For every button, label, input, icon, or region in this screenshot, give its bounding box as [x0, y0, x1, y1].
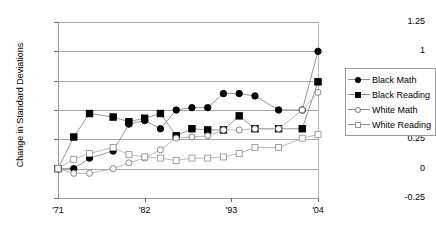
x-tick-mark [145, 198, 146, 202]
y-tick-mark [54, 139, 58, 140]
data-point [142, 155, 148, 161]
legend-marker-open-square-icon [348, 119, 370, 131]
legend-item-label: White Reading [370, 120, 431, 130]
data-point [173, 157, 179, 163]
data-point [126, 152, 132, 158]
data-point [71, 170, 77, 176]
x-tick-mark [318, 198, 319, 202]
legend-item[interactable]: White Math [348, 102, 431, 117]
data-point [110, 148, 116, 154]
y-tick-label: -0.25 [373, 193, 425, 202]
x-tick-label: '71 [38, 205, 78, 215]
data-point [142, 154, 148, 160]
y-axis-title: Change in Standard Deviations [15, 15, 25, 195]
data-point [157, 126, 163, 132]
y-tick-mark [54, 81, 58, 82]
data-point [173, 133, 179, 139]
data-point [157, 110, 163, 116]
data-point [71, 156, 77, 162]
data-point [252, 145, 258, 151]
legend-marker-filled-square-icon [348, 89, 370, 101]
legend: Black Math Black Reading White Math Whit… [345, 68, 436, 136]
y-tick-label: 1.25 [373, 17, 425, 26]
data-point [87, 170, 93, 176]
data-point [189, 126, 195, 132]
y-tick-mark [54, 110, 58, 111]
data-point [252, 126, 258, 132]
data-point [126, 119, 132, 125]
data-point [220, 127, 226, 133]
data-point [157, 147, 163, 153]
data-point [126, 121, 132, 127]
data-point [236, 90, 242, 96]
gridline [58, 139, 318, 140]
data-point [220, 90, 226, 96]
data-point [275, 126, 281, 132]
data-point [141, 115, 147, 121]
data-point [276, 145, 282, 151]
data-point [141, 117, 147, 123]
series-white-reading [55, 132, 321, 172]
x-tick-mark [231, 198, 232, 202]
legend-item[interactable]: Black Reading [348, 87, 431, 102]
legend-item-label: Black Math [370, 75, 417, 85]
x-tick-label: '82 [125, 205, 165, 215]
legend-item-label: Black Reading [370, 90, 430, 100]
data-point [252, 93, 258, 99]
data-point [110, 145, 116, 151]
y-tick-mark [54, 198, 58, 199]
legend-item[interactable]: Black Math [348, 72, 431, 87]
y-tick-mark [54, 169, 58, 170]
data-point [189, 155, 195, 161]
series-white-math [55, 89, 321, 176]
x-tick-label: '93 [211, 205, 251, 215]
x-tick-label: '04 [298, 205, 338, 215]
data-point [86, 110, 92, 116]
legend-marker-open-circle-icon [348, 104, 370, 116]
data-point [220, 154, 226, 160]
y-tick-mark [54, 22, 58, 23]
data-point [236, 113, 242, 119]
data-point [236, 150, 242, 156]
legend-item-label: White Math [370, 105, 418, 115]
gridline [58, 169, 318, 170]
data-point [236, 127, 242, 133]
data-point [276, 126, 282, 132]
data-point [204, 127, 210, 133]
data-point [87, 150, 93, 156]
data-point [86, 155, 92, 161]
series-line [58, 82, 318, 169]
legend-item[interactable]: White Reading [348, 117, 431, 132]
data-point [299, 126, 305, 132]
gridline [58, 51, 318, 52]
data-point [110, 114, 116, 120]
data-point [205, 133, 211, 139]
data-point [126, 160, 132, 166]
data-point [220, 127, 226, 133]
data-point [157, 155, 163, 161]
legend-marker-filled-circle-icon [348, 74, 370, 86]
data-point [205, 155, 211, 161]
y-tick-label: 0 [373, 164, 425, 173]
gridline [58, 22, 318, 23]
series-line [58, 92, 318, 173]
y-tick-mark [54, 51, 58, 52]
gridline [58, 81, 318, 82]
y-tick-label: 1 [373, 46, 425, 55]
data-point [252, 126, 258, 132]
x-axis-line [58, 198, 319, 199]
plot-border-right [318, 22, 319, 198]
series-black-reading [55, 79, 321, 172]
gridline [58, 110, 318, 111]
